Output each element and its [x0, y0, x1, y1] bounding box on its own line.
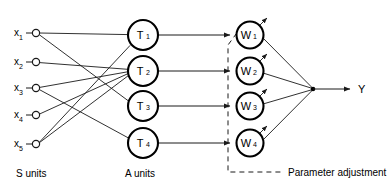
s-node-x5[interactable]: [32, 140, 39, 147]
edge-w1-y: [263, 38, 312, 88]
caption-parameter-adjustment: Parameter adjustment: [288, 167, 387, 178]
w-label-w2-base: W: [241, 65, 252, 77]
edge-x5-t1: [39, 45, 130, 142]
neural-network-diagram: T 1 T 2 T 3 T 4 W 1 W 2 W 3 W 4 x 1 x 2 …: [0, 0, 389, 192]
output-label-y: Y: [358, 83, 366, 95]
w-label-w3-sub: 3: [253, 104, 257, 111]
s-unit-leaders: [26, 33, 32, 144]
s-to-a-edges: [39, 33, 130, 143]
s-unit-nodes: [32, 29, 39, 147]
w-label-w1-base: W: [241, 29, 252, 41]
a-label-t3-base: T: [137, 100, 144, 112]
s-label-x3-sub: 3: [19, 89, 23, 96]
a-label-t1-base: T: [137, 29, 144, 41]
a-to-w-edges: [158, 35, 230, 143]
w-label-w2-sub: 2: [253, 69, 257, 76]
a-label-t2-sub: 2: [146, 69, 150, 76]
edge-w3-y: [263, 90, 312, 104]
s-node-x3[interactable]: [32, 84, 39, 91]
s-node-x1[interactable]: [32, 29, 39, 36]
s-unit-labels: x 1 x 2 x 3 x 4 x 5: [14, 27, 23, 152]
s-node-x2[interactable]: [32, 58, 39, 65]
w-to-output-edges: [263, 38, 350, 140]
a-label-t4-base: T: [137, 137, 144, 149]
edge-x3-t4: [39, 90, 129, 139]
s-node-x4[interactable]: [32, 111, 39, 118]
w-label-w1-sub: 1: [253, 33, 257, 40]
caption-s-units: S units: [16, 168, 47, 179]
a-label-t4-sub: 4: [146, 141, 150, 148]
a-label-t2-base: T: [137, 65, 144, 77]
diagram-canvas: T 1 T 2 T 3 T 4 W 1 W 2 W 3 W 4 x 1 x 2 …: [0, 0, 389, 192]
w-label-w4-sub: 4: [253, 141, 257, 148]
caption-a-units: A units: [125, 168, 155, 179]
w-label-w3-base: W: [241, 100, 252, 112]
a-label-t3-sub: 3: [146, 104, 150, 111]
s-label-x1-sub: 1: [19, 34, 23, 41]
s-label-x5-sub: 5: [19, 145, 23, 152]
w-label-w4-base: W: [241, 137, 252, 149]
s-label-x4-sub: 4: [19, 116, 23, 123]
s-label-x2-sub: 2: [19, 63, 23, 70]
edge-w4-y: [263, 91, 312, 140]
edge-x1-t1: [40, 33, 129, 35]
a-label-t1-sub: 1: [146, 33, 150, 40]
